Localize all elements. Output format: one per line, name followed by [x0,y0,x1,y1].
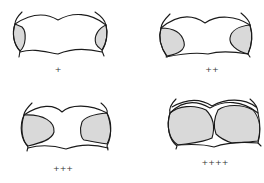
outline-top-grade-2 [161,17,250,28]
grade-label-2: ++ [205,65,218,74]
fill-right-grade-2 [230,25,252,54]
panel-grade-4 [168,99,261,149]
diagram-canvas [0,0,264,183]
fill-right-grade-1 [95,25,107,50]
panel-grade-3 [21,103,111,151]
outline-top-grade-1 [15,15,106,25]
fill-right-grade-3 [81,113,111,144]
grade-label-4: ++++ [202,158,229,167]
fill-right-grade-4 [214,106,259,144]
grade-label-1: + [55,65,62,74]
fill-left-grade-3 [21,115,54,146]
outline-top-grade-3 [24,106,107,115]
fill-left-grade-1 [13,24,25,51]
grade-label-3: +++ [53,164,73,173]
outline-bottom-grade-1 [20,49,102,54]
panel-grade-1 [13,12,107,57]
fill-left-grade-4 [168,106,213,145]
panel-grade-2 [160,13,252,57]
outline-bottom-grade-3 [28,145,108,149]
